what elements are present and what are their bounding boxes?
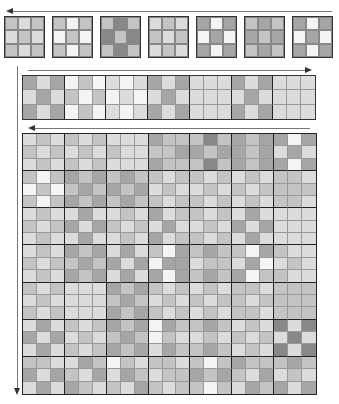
grid-cell <box>302 295 316 307</box>
grid-cell <box>218 369 232 381</box>
grid-cell <box>245 105 259 119</box>
grid-cell <box>23 76 37 90</box>
grid-cell <box>176 332 190 344</box>
grid-cell <box>204 208 218 220</box>
grid-cell <box>65 382 79 394</box>
grid-cell <box>79 344 93 356</box>
grid-cell <box>302 134 316 146</box>
grid-cell <box>135 295 149 307</box>
grid-cell <box>190 283 204 295</box>
grid-cell <box>204 221 218 233</box>
tile-cell <box>149 30 162 43</box>
grid-cell <box>79 307 93 319</box>
grid-cell <box>121 134 135 146</box>
grid-cell <box>135 196 149 208</box>
tile-cell <box>175 17 188 30</box>
grid-cell <box>79 184 93 196</box>
grid-cell <box>246 320 260 332</box>
grid-cell <box>121 258 135 270</box>
grid-cell <box>274 146 288 158</box>
tile-cell <box>245 17 258 30</box>
grid-cell <box>37 369 51 381</box>
grid-cell <box>51 283 65 295</box>
grid-cell <box>93 146 107 158</box>
grid-cell <box>23 382 37 394</box>
grid-cell <box>288 357 302 369</box>
tile-cell <box>197 44 210 57</box>
tile-cell <box>18 44 31 57</box>
grid-cell <box>93 184 107 196</box>
grid-cell <box>259 105 273 119</box>
grid-cell <box>93 208 107 220</box>
grid-cell <box>273 76 287 90</box>
grid-cell <box>93 245 107 257</box>
grid-cell <box>246 369 260 381</box>
grid-cell <box>232 258 246 270</box>
grid-cell <box>51 369 65 381</box>
grid-cell <box>218 332 232 344</box>
grid-cell <box>23 357 37 369</box>
tile-cell <box>319 17 332 30</box>
grid-cell <box>135 233 149 245</box>
grid-cell <box>23 307 37 319</box>
grid-cell <box>107 369 121 381</box>
grid-cell <box>190 221 204 233</box>
grid-cell <box>79 171 93 183</box>
tile-cell <box>31 17 44 30</box>
grid-cell <box>287 90 301 104</box>
grid-cell <box>51 134 65 146</box>
grid-cell <box>302 369 316 381</box>
grid-cell <box>176 382 190 394</box>
grid-cell <box>65 344 79 356</box>
tile-cell <box>149 44 162 57</box>
top-tile <box>292 16 333 58</box>
grid-cell <box>148 90 162 104</box>
grid-cell <box>190 344 204 356</box>
grid-cell <box>274 258 288 270</box>
grid-cell <box>274 295 288 307</box>
grid-cell <box>121 233 135 245</box>
grid-cell <box>246 357 260 369</box>
grid-cell <box>23 184 37 196</box>
grid-cell <box>287 105 301 119</box>
grid-cell <box>107 184 121 196</box>
tile-cell <box>306 44 319 57</box>
tile-cell <box>210 30 223 43</box>
grid-cell <box>37 283 51 295</box>
grid-cell <box>121 357 135 369</box>
grid-cell <box>107 171 121 183</box>
grid-cell <box>37 196 51 208</box>
grid-cell <box>65 208 79 220</box>
grid-cell <box>246 382 260 394</box>
grid-cell <box>149 332 163 344</box>
tile-cell <box>210 17 223 30</box>
grid-cell <box>135 344 149 356</box>
grid-cell <box>176 171 190 183</box>
grid-cell <box>260 159 274 171</box>
grid-cell <box>204 332 218 344</box>
grid-cell <box>190 134 204 146</box>
tile-cell <box>101 44 114 57</box>
grid-cell <box>232 90 246 104</box>
tile-cell <box>319 44 332 57</box>
grid-cell <box>121 320 135 332</box>
grid-cell <box>79 159 93 171</box>
grid-cell <box>246 344 260 356</box>
grid-cell <box>288 134 302 146</box>
tile-cell <box>245 44 258 57</box>
grid-cell <box>176 159 190 171</box>
grid-cell <box>287 76 301 90</box>
grid-cell <box>148 105 162 119</box>
tile-cell <box>5 44 18 57</box>
grid-cell <box>121 344 135 356</box>
tile-cell <box>293 17 306 30</box>
grid-cell <box>190 196 204 208</box>
tile-cell <box>53 44 66 57</box>
grid-cell <box>135 171 149 183</box>
grid-cell <box>79 357 93 369</box>
grid-cell <box>218 357 232 369</box>
tile-cell <box>162 44 175 57</box>
grid-cell <box>65 320 79 332</box>
grid-cell <box>79 134 93 146</box>
grid-cell <box>51 320 65 332</box>
